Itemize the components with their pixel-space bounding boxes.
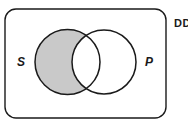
- set-label-s: S: [17, 55, 25, 69]
- universe-rectangle: [5, 9, 166, 118]
- venn-diagram: S P DD: [0, 0, 188, 124]
- set-label-p: P: [145, 55, 154, 69]
- universe-label: DD: [174, 17, 188, 29]
